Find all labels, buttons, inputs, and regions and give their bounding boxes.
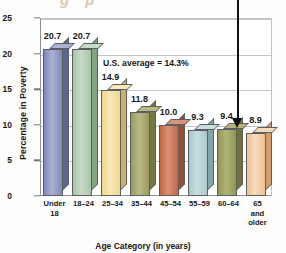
down-arrow-icon-shaft [237, 0, 239, 122]
bar-front-face [188, 130, 208, 196]
y-axis-tick-label: 10 [0, 120, 12, 130]
bar[interactable] [130, 112, 150, 196]
down-arrow-icon [232, 118, 242, 128]
y-axis-tick-label: 0 [0, 191, 12, 201]
bar-front-face [72, 49, 92, 196]
bar[interactable] [43, 49, 63, 196]
bar-side-face [92, 37, 98, 190]
y-axis-tick-label: 25 [0, 13, 12, 23]
y-axis-tick-label: 15 [0, 84, 12, 94]
bar-front-face [130, 112, 150, 196]
y-axis-tick-label: 20 [0, 49, 12, 59]
bar-front-face [43, 49, 63, 196]
bar[interactable] [159, 125, 179, 196]
bar-front-face [101, 90, 121, 196]
x-axis-category-label: 65 and older [239, 199, 276, 228]
bar-value-label: 11.8 [120, 94, 160, 104]
bar[interactable] [101, 90, 121, 196]
bar-value-label: 14.9 [91, 72, 131, 82]
y-axis-tick-label: 5 [0, 155, 12, 165]
poverty-by-age-bar-chart: g p Percentage in Poverty 0510152025 20.… [0, 0, 286, 253]
y-axis-title: Percentage in Poverty [18, 38, 28, 188]
bar-front-face [217, 129, 237, 196]
bar[interactable] [217, 129, 237, 196]
bar-front-face [159, 125, 179, 196]
cut-off-title-remnant: g p [60, 0, 101, 8]
x-axis-category-group: Under 1818–2425–3435–4445–5455–5960–6465… [40, 199, 272, 245]
bar[interactable] [246, 133, 266, 196]
bar-side-face [63, 37, 69, 190]
us-average-annotation: U.S. average = 14.3% [103, 58, 189, 68]
bar[interactable] [188, 130, 208, 196]
x-axis-title: Age Category (in years) [0, 241, 286, 251]
bar[interactable] [72, 49, 92, 196]
bar-front-face [246, 133, 266, 196]
bar-value-label: 20.7 [62, 31, 102, 41]
